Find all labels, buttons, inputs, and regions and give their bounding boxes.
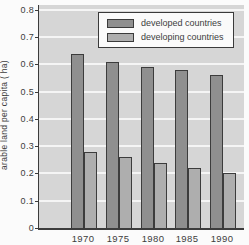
y-axis-title: arable land per capita ( ha)	[0, 15, 9, 215]
bar-developing-1970	[84, 152, 97, 228]
y-tick-label-0.7: 0.7	[12, 33, 34, 42]
bar-developed-1985	[175, 70, 188, 228]
y-tick-label-0.1: 0.1	[12, 197, 34, 206]
legend-swatch-icon	[107, 33, 134, 42]
y-tick-mark	[35, 201, 38, 202]
legend: developed countriesdeveloping countries	[98, 12, 234, 48]
legend-label: developing countries	[141, 32, 224, 42]
plot-area: developed countriesdeveloping countries	[38, 5, 244, 230]
x-tick-label-1975: 1975	[100, 233, 136, 244]
bar-developing-1980	[154, 163, 167, 228]
y-tick-label-0: 0	[12, 224, 34, 233]
bar-developed-1980	[141, 67, 154, 228]
y-tick-mark	[35, 10, 38, 11]
legend-swatch-icon	[107, 19, 134, 28]
bar-developed-1975	[106, 62, 119, 228]
x-tick-label-1980: 1980	[135, 233, 171, 244]
gridline-0.6	[39, 63, 244, 65]
y-tick-label-0.6: 0.6	[12, 60, 34, 69]
y-tick-mark	[35, 173, 38, 174]
y-tick-mark	[35, 64, 38, 65]
y-tick-mark	[35, 119, 38, 120]
y-tick-mark	[35, 92, 38, 93]
legend-label: developed countries	[141, 18, 222, 28]
bar-developing-1985	[188, 168, 201, 228]
y-tick-mark	[35, 146, 38, 147]
x-tick-label-1985: 1985	[169, 233, 205, 244]
legend-item-developed: developed countries	[107, 18, 224, 28]
x-tick-label-1990: 1990	[204, 233, 240, 244]
gridline-0.8	[39, 9, 244, 11]
y-tick-label-0.2: 0.2	[12, 169, 34, 178]
legend-item-developing: developing countries	[107, 32, 224, 42]
bar-developing-1990	[223, 173, 236, 228]
bar-developed-1970	[71, 54, 84, 228]
bar-chart: arable land per capita ( ha) developed c…	[0, 0, 249, 245]
x-tick-label-1970: 1970	[65, 233, 101, 244]
y-tick-mark	[35, 37, 38, 38]
y-tick-label-0.4: 0.4	[12, 115, 34, 124]
y-tick-label-0.5: 0.5	[12, 88, 34, 97]
bar-developing-1975	[119, 157, 132, 228]
y-tick-mark	[35, 228, 38, 229]
bar-developed-1990	[210, 75, 223, 228]
y-tick-label-0.3: 0.3	[12, 142, 34, 151]
y-tick-label-0.8: 0.8	[12, 6, 34, 15]
